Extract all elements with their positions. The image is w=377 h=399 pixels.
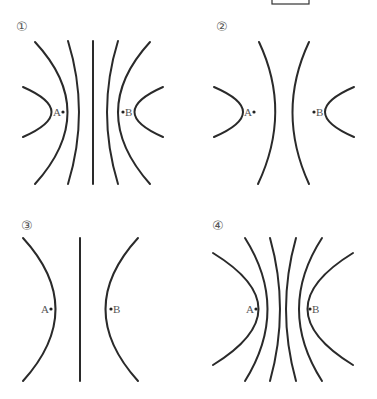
field-line: [23, 87, 52, 137]
panel-number: ③: [21, 218, 33, 233]
charge-a-dot: [49, 307, 52, 310]
field-line: [293, 42, 310, 184]
field-line: [258, 42, 275, 184]
panel-number: ②: [216, 19, 228, 34]
charge-a-dot: [254, 307, 257, 310]
label-b: B: [312, 303, 319, 315]
field-line: [270, 238, 280, 381]
panel-number: ④: [212, 218, 224, 233]
label-a: A: [246, 303, 254, 315]
label-b: B: [316, 106, 323, 118]
field-line: [107, 41, 118, 184]
answer-box: [272, 0, 309, 4]
field-line: [135, 87, 164, 137]
panel-3: ③ A B: [21, 218, 138, 381]
panel-1: ① A B: [16, 19, 163, 184]
panel-4: ④ A B: [212, 218, 353, 381]
panel-2: ② A B: [214, 19, 354, 184]
label-b: B: [125, 106, 132, 118]
label-a: A: [53, 106, 61, 118]
charge-a-dot: [61, 110, 64, 113]
charge-a-dot: [252, 110, 255, 113]
field-line: [325, 87, 354, 137]
label-a: A: [41, 303, 49, 315]
field-line: [68, 41, 79, 184]
label-b: B: [113, 303, 120, 315]
field-line: [214, 87, 243, 137]
label-a: A: [244, 106, 252, 118]
panel-number: ①: [16, 19, 28, 34]
field-line: [286, 238, 296, 381]
field-line-diagram: ① A B ② A B ③ A B ④: [0, 0, 377, 399]
